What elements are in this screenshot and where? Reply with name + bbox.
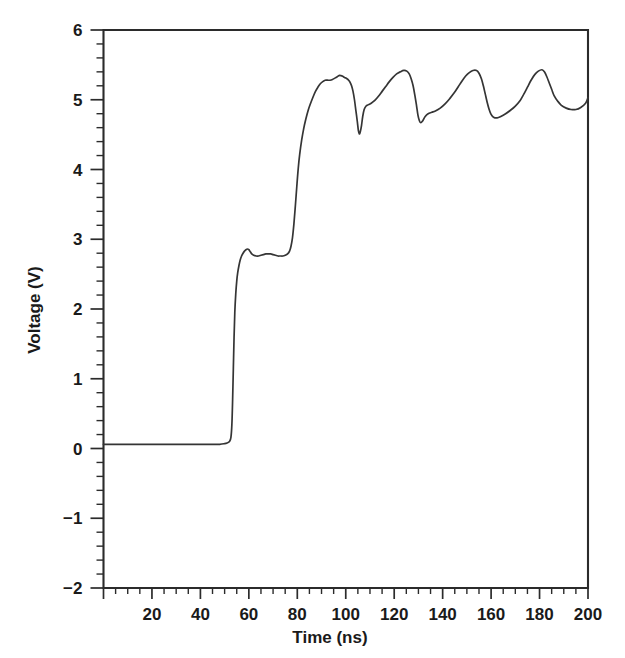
y-tick-label: 5 [73, 91, 82, 110]
axes [104, 30, 589, 588]
y-axis-title: Voltage (V) [25, 266, 44, 354]
x-tick-label: 120 [380, 605, 408, 624]
x-tick-label: 200 [574, 605, 602, 624]
x-tick-label: 180 [525, 605, 553, 624]
x-tick-label: 140 [428, 605, 456, 624]
x-tick-label: 20 [142, 605, 161, 624]
voltage-vs-time-chart: −2−1012345620406080100120140160180200 Ti… [0, 0, 625, 658]
chart-figure: −2−1012345620406080100120140160180200 Ti… [0, 0, 625, 658]
y-tick-label: 2 [73, 300, 82, 319]
tick-marks [91, 30, 589, 599]
y-tick-label: 1 [73, 370, 82, 389]
x-tick-label: 80 [288, 605, 307, 624]
x-tick-label: 40 [191, 605, 210, 624]
y-tick-label: −1 [63, 509, 82, 528]
x-tick-label: 160 [477, 605, 505, 624]
x-axis-title: Time (ns) [292, 628, 367, 647]
voltage-trace [104, 70, 589, 445]
x-tick-label: 60 [239, 605, 258, 624]
y-tick-label: 6 [73, 21, 82, 40]
y-tick-label: 0 [73, 440, 82, 459]
data-series [104, 70, 589, 445]
tick-labels: −2−1012345620406080100120140160180200 [63, 21, 602, 624]
plot-frame [104, 30, 589, 588]
y-tick-label: 3 [73, 230, 82, 249]
y-tick-label: 4 [73, 161, 83, 180]
y-tick-label: −2 [63, 579, 82, 598]
x-tick-label: 100 [332, 605, 360, 624]
